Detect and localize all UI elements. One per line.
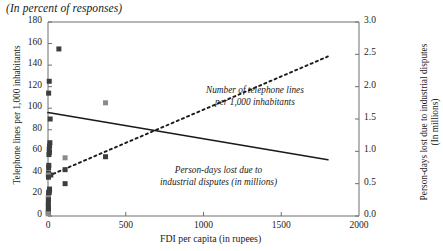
scatter-point [46,175,51,180]
scatter-point [103,154,108,159]
scatter-point [46,211,51,216]
x-tick-1500: 1500 [261,220,301,230]
y-right-tick-2.0: 2.0 [364,80,388,90]
y-right-tick-1.0: 1.0 [364,144,388,154]
scatter-point [47,79,52,84]
scatter-point [48,117,53,122]
x-tick-500: 500 [106,220,146,230]
scatter-point [63,155,68,160]
y-left-tick-140: 140 [18,58,42,68]
scatter-point [63,181,68,186]
x-tick-0: 0 [28,220,68,230]
scatter-point [46,165,51,170]
y-left-tick-60: 60 [18,144,42,154]
y-right-tick-1.5: 1.5 [364,112,388,122]
scatter-points [46,46,108,216]
trend-line-solid [48,113,328,160]
y-right-tick-0.5: 0.5 [364,177,388,187]
x-tick-2000: 2000 [339,220,379,230]
y-left-tick-100: 100 [18,101,42,111]
y-axis-right-title-line2: (In millions) [430,27,441,217]
x-tick-1000: 1000 [184,220,224,230]
y-left-tick-0: 0 [18,209,42,219]
trend-lines [48,56,328,176]
scatter-point [46,91,51,96]
y-left-tick-120: 120 [18,80,42,90]
trend-line-dashed [48,56,328,176]
y-axis-right-title: Person-days lost due to industrial dispu… [419,27,443,217]
axis-ticks [48,22,359,216]
y-right-tick-2.5: 2.5 [364,47,388,57]
y-left-tick-180: 180 [18,15,42,25]
scatter-point [103,100,108,105]
y-left-tick-160: 160 [18,37,42,47]
scatter-point [46,152,51,157]
axis-frame [48,22,359,216]
y-left-tick-20: 20 [18,187,42,197]
y-right-tick-3.0: 3.0 [364,15,388,25]
y-right-tick-0.0: 0.0 [364,209,388,219]
scatter-point [63,167,68,172]
y-left-tick-40: 40 [18,166,42,176]
scatter-point [56,46,61,51]
y-left-tick-80: 80 [18,123,42,133]
